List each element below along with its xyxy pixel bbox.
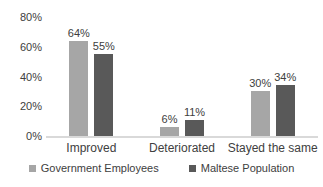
x-axis-category-label: Deteriorated [137, 141, 228, 155]
y-axis-tick-label: 20% [0, 99, 42, 113]
bar: 34% [276, 85, 295, 136]
bar: 64% [69, 41, 88, 136]
bar-chart: 0%20%40%60%80% 64%55%6%11%30%34% Improve… [0, 0, 323, 187]
legend-entry: Maltese Population [189, 162, 295, 174]
bar-value-label: 64% [68, 27, 90, 39]
y-axis-tick-label: 60% [0, 40, 42, 54]
bar-value-label: 55% [93, 40, 115, 52]
legend-label: Government Employees [41, 162, 159, 174]
bar: 55% [94, 54, 113, 136]
bar-group: 30%34% [227, 17, 318, 136]
bar: 30% [251, 91, 270, 136]
legend-entry: Government Employees [29, 162, 159, 174]
y-axis-tick-label: 40% [0, 70, 42, 84]
bar-group: 64%55% [46, 17, 137, 136]
legend-label: Maltese Population [201, 162, 295, 174]
bar-value-label: 30% [249, 77, 271, 89]
x-axis-category-label: Stayed the same [227, 141, 318, 155]
x-axis-labels: ImprovedDeterioratedStayed the same [46, 141, 318, 155]
legend-marker-icon [29, 165, 36, 172]
x-axis-category-label: Improved [46, 141, 137, 155]
bar-value-label: 11% [184, 106, 205, 118]
plot-area: 64%55%6%11%30%34% [46, 17, 318, 138]
bar: 11% [185, 120, 204, 136]
legend-marker-icon [189, 165, 196, 172]
bar-value-label: 6% [162, 113, 178, 125]
y-axis-tick-label: 0% [0, 129, 42, 143]
legend: Government EmployeesMaltese Population [0, 162, 323, 174]
y-axis-tick-label: 80% [0, 10, 42, 24]
bar: 6% [160, 127, 179, 136]
bar-group: 6%11% [137, 17, 228, 136]
bar-value-label: 34% [274, 71, 296, 83]
